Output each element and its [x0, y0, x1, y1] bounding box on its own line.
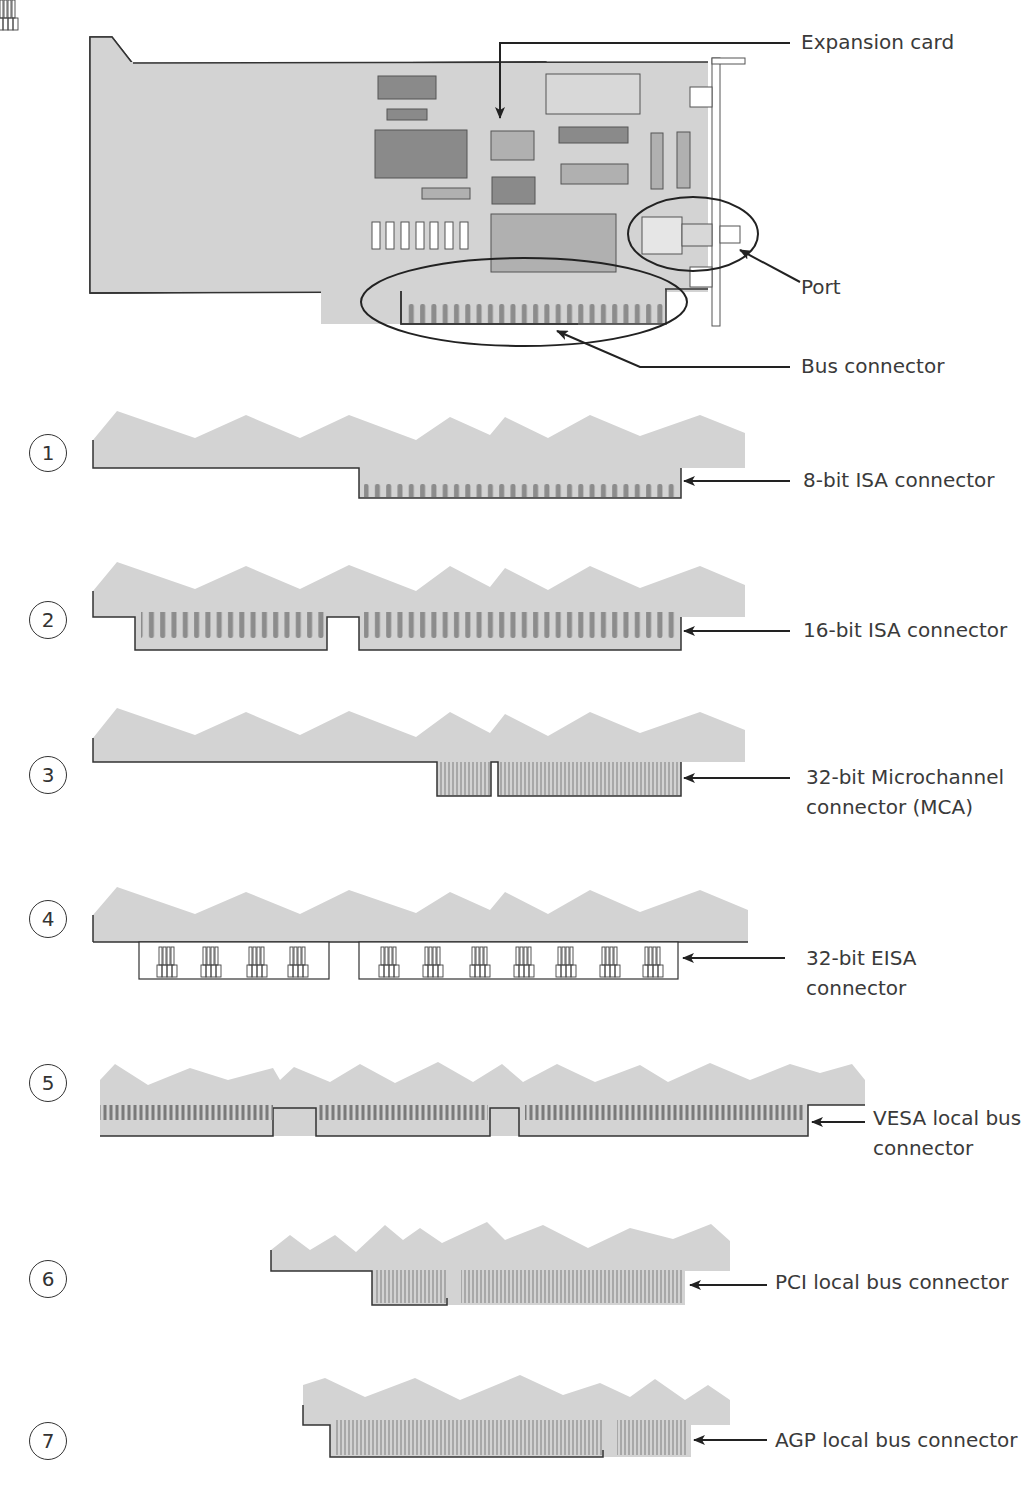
connector-label-5-line1: VESA local bus — [873, 1103, 1021, 1134]
connector-number-2: 2 — [29, 601, 67, 639]
bus-connector-label: Bus connector — [801, 351, 944, 382]
expansion-card-illustration — [90, 37, 800, 367]
connector-label-4-line2: connector — [806, 973, 906, 1004]
connector-number-6: 6 — [29, 1260, 67, 1298]
connector-label-3-line1: 32-bit Microchannel — [806, 762, 1004, 793]
connector-agp — [303, 1375, 767, 1457]
connector-label-5-line2: connector — [873, 1133, 973, 1164]
connector-16bit-isa — [93, 562, 790, 650]
port-label: Port — [801, 272, 841, 303]
connector-label-6: PCI local bus connector — [775, 1267, 1009, 1298]
connector-number-4: 4 — [29, 900, 67, 938]
connector-8bit-isa — [93, 411, 790, 498]
diagram-canvas — [0, 0, 1036, 1485]
connector-label-7: AGP local bus connector — [775, 1425, 1018, 1456]
connector-label-4-line1: 32-bit EISA — [806, 943, 916, 974]
connector-32bit-mca — [93, 708, 790, 796]
connector-label-1: 8-bit ISA connector — [803, 465, 995, 496]
connector-number-3: 3 — [29, 756, 67, 794]
connector-label-3-line2: connector (MCA) — [806, 792, 973, 823]
connector-number-7: 7 — [29, 1422, 67, 1460]
connector-label-2: 16-bit ISA connector — [803, 615, 1007, 646]
expansion-card-label: Expansion card — [801, 27, 954, 58]
connector-number-1: 1 — [29, 434, 67, 472]
connector-vesa — [100, 1062, 865, 1136]
bus-connector-pins — [404, 287, 664, 323]
connector-number-5: 5 — [29, 1064, 67, 1102]
connector-pci — [271, 1222, 767, 1305]
